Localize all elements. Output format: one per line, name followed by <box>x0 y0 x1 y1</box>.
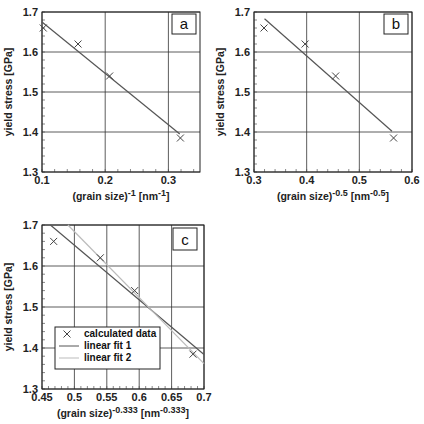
data-point-marker <box>390 135 397 142</box>
y-tick-label: 1.7 <box>23 6 38 18</box>
grid <box>254 12 412 172</box>
data-point-marker <box>332 73 339 80</box>
x-tick-label: 0.6 <box>132 391 147 403</box>
fit-line <box>265 19 392 131</box>
y-tick-label: 1.5 <box>235 86 250 98</box>
y-tick-label: 1.3 <box>235 166 250 178</box>
legend: calculated datalinear fit 1linear fit 2 <box>55 327 160 369</box>
grid <box>42 12 200 172</box>
y-tick-label: 1.6 <box>235 46 250 58</box>
data-point-marker <box>97 254 104 261</box>
x-tick-label: 0.5 <box>352 174 367 186</box>
y-tick-label: 1.5 <box>23 86 38 98</box>
panel-label: b <box>392 15 400 32</box>
x-tick-label: 0.4 <box>299 174 315 186</box>
y-tick-label: 1.6 <box>23 46 38 58</box>
y-tick-label: 1.3 <box>23 383 38 395</box>
x-tick-label: 0.6 <box>404 174 419 186</box>
y-tick-label: 1.5 <box>23 301 38 313</box>
figure: 0.10.20.31.31.41.51.61.7(grain size)-1 [… <box>0 0 424 424</box>
x-tick-label: 0.3 <box>161 174 176 186</box>
y-tick-label: 1.6 <box>23 260 38 272</box>
y-axis-label: yield stress [GPa] <box>214 48 226 137</box>
x-tick-label: 0.5 <box>67 391 82 403</box>
y-tick-label: 1.4 <box>23 126 39 138</box>
data-point-marker <box>50 238 57 245</box>
data-point-marker <box>75 41 82 48</box>
data-point-marker <box>40 25 47 32</box>
y-tick-label: 1.7 <box>235 6 250 18</box>
chart-panel-b: 0.30.40.50.61.31.41.51.61.7(grain size)-… <box>214 6 420 202</box>
y-tick-label: 1.4 <box>235 126 251 138</box>
y-axis-label: yield stress [GPa] <box>2 263 14 352</box>
x-tick-label: 0.7 <box>196 391 211 403</box>
data-point-marker <box>106 73 113 80</box>
panel-label: c <box>181 231 189 248</box>
x-axis-label: (grain size)-0.5 [nm-0.5] <box>277 188 389 202</box>
x-axis-label: (grain size)-1 [nm-1] <box>72 188 169 202</box>
x-tick-label: 0.2 <box>98 174 113 186</box>
y-tick-label: 1.7 <box>23 219 38 231</box>
data-point-marker <box>177 135 184 142</box>
x-tick-label: 0.55 <box>96 391 117 403</box>
y-axis-label: yield stress [GPa] <box>2 48 14 137</box>
fit-line <box>42 22 180 134</box>
legend-entry: calculated data <box>84 328 157 339</box>
data-point-marker <box>261 25 268 32</box>
y-tick-label: 1.3 <box>23 166 38 178</box>
x-tick-label: 0.65 <box>161 391 182 403</box>
chart-panel-c: 0.450.50.550.60.650.71.31.41.51.61.7(gra… <box>2 219 212 419</box>
panel-label: a <box>180 15 189 32</box>
x-axis-label: (grain size)-0.333 [nm-0.333] <box>57 405 189 419</box>
data-point-marker <box>302 41 309 48</box>
chart-panel-a: 0.10.20.31.31.41.51.61.7(grain size)-1 [… <box>2 6 200 202</box>
y-tick-label: 1.4 <box>23 342 39 354</box>
legend-entry: linear fit 1 <box>84 340 132 351</box>
legend-entry: linear fit 2 <box>84 352 132 363</box>
